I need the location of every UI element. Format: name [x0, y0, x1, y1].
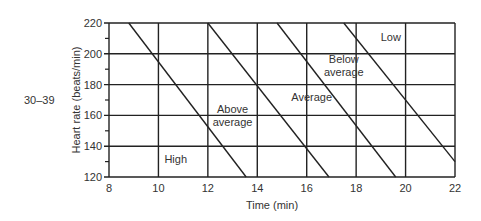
y-tick-label: 200 — [84, 48, 102, 60]
y-tick-label: 140 — [84, 140, 102, 152]
x-tick-label: 22 — [449, 182, 461, 194]
x-tick-label: 20 — [399, 182, 411, 194]
zone-boundary-line — [129, 23, 246, 177]
x-axis-label: Time (min) — [246, 199, 298, 211]
zone-boundary-line — [344, 23, 455, 162]
zone-label: High — [164, 153, 187, 165]
y-tick-label: 160 — [84, 109, 102, 121]
y-tick-label: 220 — [84, 17, 102, 29]
zone-label: Average — [291, 91, 332, 103]
zone-label: Belowaverage — [324, 53, 364, 78]
zone-label: Low — [381, 31, 401, 43]
x-tick-label: 16 — [301, 182, 313, 194]
zone-label: Aboveaverage — [213, 103, 253, 128]
x-tick-label: 14 — [251, 182, 263, 194]
x-tick-label: 10 — [152, 182, 164, 194]
x-tick-label: 8 — [106, 182, 112, 194]
heart-rate-chart: 810121416182022120140160180200220HighAbo… — [0, 0, 481, 221]
y-tick-label: 180 — [84, 79, 102, 91]
x-tick-label: 12 — [202, 182, 214, 194]
y-tick-label: 120 — [84, 171, 102, 183]
x-tick-label: 18 — [350, 182, 362, 194]
y-axis-label: Heart rate (beats/min) — [70, 47, 82, 154]
